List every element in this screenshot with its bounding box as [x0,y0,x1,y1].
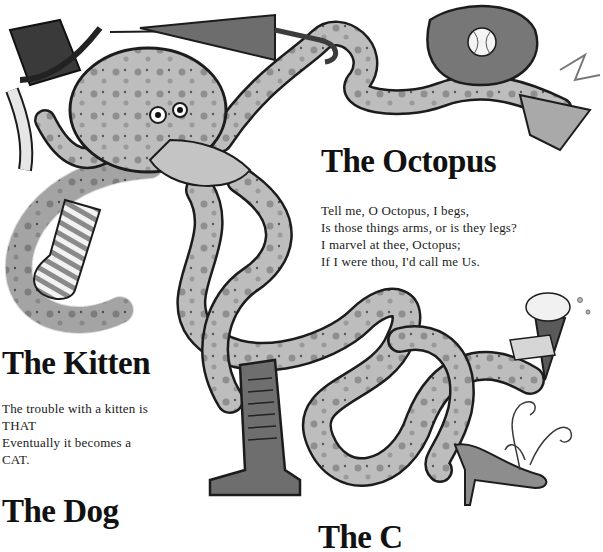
poem-title-cut-off: The C [318,521,403,552]
poem-line: I marvel at thee, Octopus; [321,236,517,253]
poem-line: Is those things arms, or is they legs? [321,219,517,236]
poem-line: The trouble with a kitten is [2,400,148,417]
baseball-glove-icon [427,6,537,85]
baseball-icon [468,28,496,56]
poem-line: If I were thou, I'd call me Us. [321,253,517,270]
feather-plume-icon [505,402,571,470]
poem-line: THAT [2,417,148,434]
poem-line: CAT. [2,451,148,468]
high-heel-shoe-icon [455,444,546,505]
poem-title-kitten: The Kitten [2,347,150,380]
poem-body-kitten: The trouble with a kitten is THAT Eventu… [2,400,148,468]
poem-title-dog: The Dog [2,495,119,528]
poem-line: Eventually it becomes a [2,434,148,451]
poem-body-octopus: Tell me, O Octopus, I begs, Is those thi… [321,202,517,270]
poem-line: Tell me, O Octopus, I begs, [321,202,517,219]
poem-title-octopus: The Octopus [321,145,496,178]
